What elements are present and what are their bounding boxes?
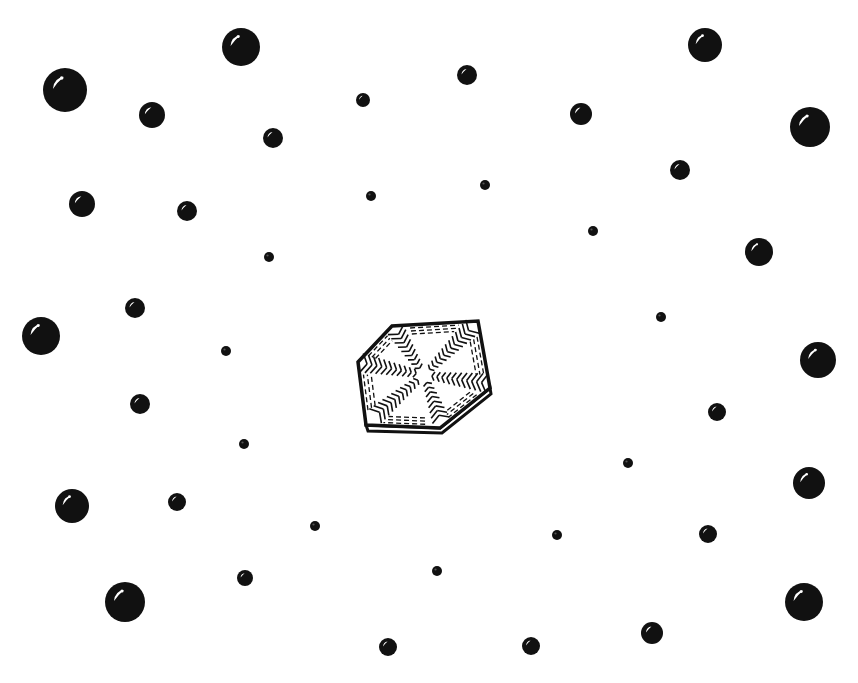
droplet [670,160,690,180]
droplet [264,252,274,262]
droplet [177,201,197,221]
droplet [522,637,540,655]
droplet [656,312,666,322]
droplet [221,346,231,356]
droplet [800,342,836,378]
droplet [125,298,145,318]
droplet [699,525,717,543]
droplet [708,403,726,421]
droplet [43,68,87,112]
droplet [237,570,253,586]
droplet [310,521,320,531]
droplet [105,582,145,622]
droplet [222,28,260,66]
droplet [366,191,376,201]
illustration-canvas [0,0,858,683]
droplet [623,458,633,468]
illustration-svg [0,0,858,683]
droplet [130,394,150,414]
droplet [688,28,722,62]
droplet [745,238,773,266]
droplet [570,103,592,125]
droplet [168,493,186,511]
droplet [22,317,60,355]
droplet [263,128,283,148]
droplet [641,622,663,644]
droplet [55,489,89,523]
droplet [69,191,95,217]
droplet [588,226,598,236]
droplet [239,439,249,449]
droplet [379,638,397,656]
droplet [457,65,477,85]
droplet [785,583,823,621]
droplet [790,107,830,147]
droplet [793,467,825,499]
droplet [356,93,370,107]
droplet [432,566,442,576]
droplet [552,530,562,540]
droplet [139,102,165,128]
droplet [480,180,490,190]
